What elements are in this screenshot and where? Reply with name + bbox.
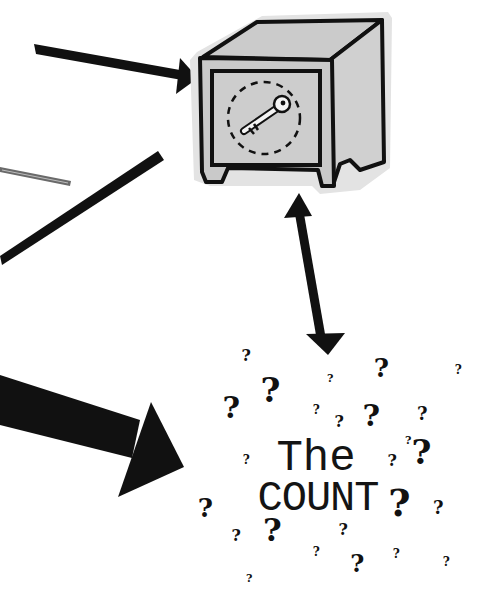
question-mark-icon: ? <box>374 355 389 381</box>
question-mark-icon: ? <box>350 552 364 576</box>
question-mark-icon: ? <box>260 373 280 407</box>
question-mark-icon: ? <box>339 522 348 538</box>
question-mark-icon: ? <box>433 499 444 517</box>
count-title-line1: The <box>268 436 364 480</box>
question-mark-icon: ? <box>388 453 397 469</box>
question-mark-icon: ? <box>223 393 241 423</box>
question-mark-icon: ? <box>405 435 411 446</box>
question-mark-icon: ? <box>443 556 450 568</box>
question-mark-icon: ? <box>327 373 333 384</box>
question-mark-icon: ? <box>335 414 344 430</box>
question-mark-icon: ? <box>246 573 252 584</box>
question-mark-icon: ? <box>243 454 250 466</box>
question-mark-icon: ? <box>232 528 241 544</box>
question-mark-icon: ? <box>313 404 320 416</box>
question-mark-cluster: ????????????????????????? <box>0 0 482 600</box>
question-mark-icon: ? <box>411 435 431 469</box>
question-mark-icon: ? <box>242 348 251 364</box>
question-mark-icon: ? <box>198 495 213 521</box>
question-mark-icon: ? <box>393 548 400 560</box>
count-title-line2: COUNT <box>243 478 393 520</box>
question-mark-icon: ? <box>455 364 462 376</box>
question-mark-icon: ? <box>363 401 381 431</box>
question-mark-icon: ? <box>417 405 428 423</box>
question-mark-icon: ? <box>313 546 320 558</box>
